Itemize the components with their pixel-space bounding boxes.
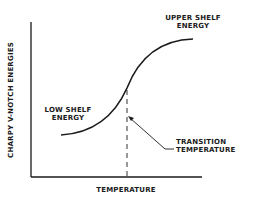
upper-shelf-line1: UPPER SHELF: [155, 14, 231, 22]
x-axis-label: TEMPERATURE: [93, 186, 159, 194]
y-axis-label: CHARPY V-NOTCH ENERGIES: [7, 42, 15, 158]
transition-arrow: [130, 118, 165, 149]
diagram-canvas: [0, 0, 255, 200]
transition-line2: TEMPERATURE: [176, 146, 246, 154]
upper-shelf-label: UPPER SHELF ENERGY: [155, 14, 231, 30]
transition-line1: TRANSITION: [176, 138, 246, 146]
low-shelf-line1: LOW SHELF: [40, 106, 96, 114]
low-shelf-label: LOW SHELF ENERGY: [40, 106, 96, 122]
upper-shelf-line2: ENERGY: [155, 22, 231, 30]
low-shelf-line2: ENERGY: [40, 114, 96, 122]
transition-temperature-label: TRANSITION TEMPERATURE: [176, 138, 246, 154]
